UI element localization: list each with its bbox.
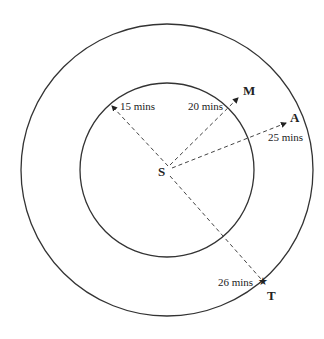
route-20-label: 20 mins xyxy=(188,100,223,112)
center-label-s: S xyxy=(158,164,165,179)
outer-circle xyxy=(21,24,313,316)
route-15-label: 15 mins xyxy=(120,100,155,112)
route-26-label: 26 mins xyxy=(218,276,253,288)
diagram-canvas: ★ S 15 mins 20 mins M A 25 mins 26 mins … xyxy=(0,0,324,339)
point-m-label: M xyxy=(243,83,255,98)
diagram: ★ S 15 mins 20 mins M A 25 mins 26 mins … xyxy=(0,0,324,339)
t-point-star-icon: ★ xyxy=(258,275,268,287)
route-t-line xyxy=(170,176,261,279)
inner-circle xyxy=(80,83,254,257)
route-25-label: 25 mins xyxy=(268,131,303,143)
point-t-label: T xyxy=(267,288,276,303)
route-a-line xyxy=(172,123,286,168)
route-15-line xyxy=(112,106,168,166)
point-a-label: A xyxy=(290,110,300,125)
